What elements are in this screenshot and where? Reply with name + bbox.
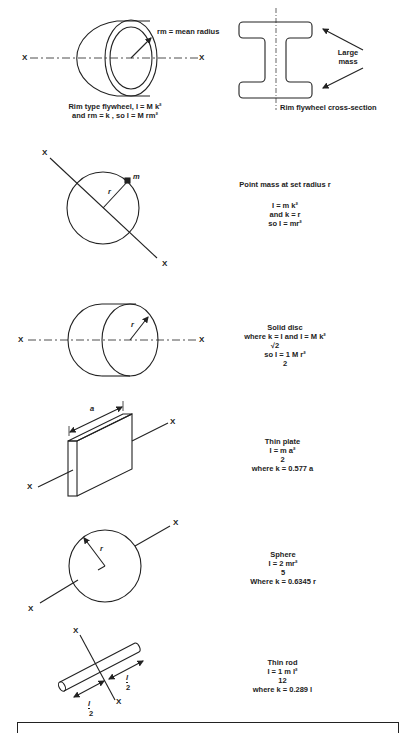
half-length-numerator: l — [126, 673, 128, 683]
axis-label-x-right: X — [173, 518, 178, 527]
formula-line: and k = r — [215, 210, 355, 219]
formula-line: so I = 1 M r² — [225, 350, 345, 359]
caption-title: Point mass at set radius r — [215, 180, 355, 189]
thin-rod-caption: Thin rod I = 1 m l² 12 where k = 0.289 l — [240, 658, 325, 694]
sphere-caption: Sphere I = 2 mr² 5 Where k = 0.6345 r — [238, 550, 328, 586]
axis-label-x-left: X — [28, 604, 33, 613]
caption-line: and rm = k , so I = M rm² — [40, 111, 190, 120]
formula-denominator: √2 — [225, 341, 325, 350]
axis-label-x-right: X — [170, 417, 175, 426]
bottom-frame-border — [17, 722, 399, 733]
axis-label-x-right: X — [199, 53, 204, 62]
half-length-denominator: 2 — [89, 709, 93, 718]
formula-numerator: I = 1 m l² — [240, 667, 325, 676]
formula-k: where k = 0.577 a — [240, 464, 325, 473]
solid-disc-caption: Solid disc where k = I and I = M k² √2 s… — [225, 323, 345, 368]
formula-line: I = m k² — [215, 201, 355, 210]
formula-numerator: I = m a² — [240, 446, 325, 455]
radius-label: r — [100, 544, 103, 553]
axis-label-x-right: X — [199, 335, 204, 344]
formula-denominator: 12 — [240, 676, 325, 685]
mass-label: m — [133, 172, 140, 181]
rim-flywheel-caption: Rim type flywheel, I = M k² and rm = k ,… — [40, 102, 190, 120]
axis-label-x-left: X — [18, 335, 23, 344]
sphere-drawing — [40, 526, 170, 603]
point-mass-caption: Point mass at set radius r I = m k² and … — [215, 180, 355, 228]
caption-title: Thin rod — [240, 658, 325, 667]
half-length-denominator: 2 — [126, 683, 130, 692]
caption-line: Rim type flywheel, I = M k² — [40, 102, 190, 111]
point-mass-drawing — [50, 158, 157, 258]
caption-title: Thin plate — [240, 437, 325, 446]
radius-label: r — [131, 320, 134, 329]
axis-label-x-top: X — [42, 148, 47, 157]
thin-plate-caption: Thin plate I = m a² 2 where k = 0.577 a — [240, 437, 325, 473]
cross-section-caption: Rim flywheel cross-section — [280, 103, 377, 112]
axis-label-x-left: X — [22, 53, 27, 62]
axis-label-x-bottom: X — [116, 697, 121, 706]
caption-title: Sphere — [238, 550, 328, 559]
axis-label-x-bottom: X — [162, 259, 167, 268]
axis-label-x-top: X — [73, 626, 78, 635]
large-mass-label: Large mass — [330, 48, 366, 66]
axis-label-x-left: X — [27, 482, 32, 491]
caption-title: Solid disc — [225, 323, 345, 332]
solid-disc-drawing — [28, 304, 196, 376]
thin-plate-drawing — [38, 401, 168, 496]
formula-denominator: 5 — [238, 568, 328, 577]
formula-denominator: 2 — [240, 455, 325, 464]
half-length-numerator: l — [88, 699, 90, 709]
dimension-label: a — [90, 404, 94, 413]
mean-radius-label: rm = mean radius — [157, 27, 219, 36]
radius-label: r — [108, 187, 111, 196]
formula-k: where k = 0.289 l — [240, 685, 325, 694]
formula-line: where k = I and I = M k² — [225, 332, 345, 341]
formula-numerator: I = 2 mr² — [238, 559, 328, 568]
formula-denominator: 2 — [225, 359, 345, 368]
formula-line: so I = mr² — [215, 219, 355, 228]
formula-k: Where k = 0.6345 r — [238, 577, 328, 586]
